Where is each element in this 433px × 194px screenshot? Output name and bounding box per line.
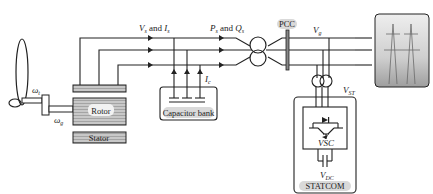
rotor-label: Rotor (91, 106, 111, 116)
arrow-icon (219, 35, 224, 41)
ps-qs-label: Ps and Qs (209, 23, 245, 34)
capacitor-bank-label: Capacitor bank (163, 108, 215, 118)
grid-towers-image (375, 14, 429, 87)
power-system-diagram: ωt ωg Rotor Stator Vs and Is Ps and Qs (0, 0, 433, 194)
arrow-up-icon (184, 69, 190, 74)
blade-top-icon (16, 39, 28, 105)
ic-label: Ic (204, 74, 211, 85)
arrow-icon (219, 47, 224, 53)
arrow-icon (148, 35, 153, 41)
hub-icon (9, 99, 21, 107)
vdc-label: VDC (320, 170, 335, 181)
arrow-icon (148, 47, 153, 53)
wind-turbine (9, 39, 73, 115)
omega-g-label: ωg (54, 115, 63, 126)
arrow-up-icon (171, 69, 177, 74)
three-phase-lines (80, 38, 372, 85)
arrow-icon (219, 62, 224, 68)
gearbox-icon (42, 95, 49, 115)
capacitor-current-arrows (171, 69, 203, 74)
vg-label: Vg (313, 25, 322, 36)
omega-t-label: ωt (32, 85, 40, 96)
vsc-label: VSC (318, 138, 335, 148)
vst-label: VST (343, 85, 356, 96)
stator-label: Stator (89, 133, 109, 143)
pcc-bus (286, 30, 289, 70)
vs-is-label: Vs and Is (139, 23, 170, 34)
arrow-icon (148, 62, 153, 68)
flow-arrows (148, 35, 224, 68)
rotor-slip-rings (73, 85, 126, 92)
transformer-icon (250, 37, 266, 66)
arrow-up-icon (197, 69, 203, 74)
pcc-label: PCC (279, 19, 295, 29)
statcom-label: STATCOM (306, 181, 345, 191)
